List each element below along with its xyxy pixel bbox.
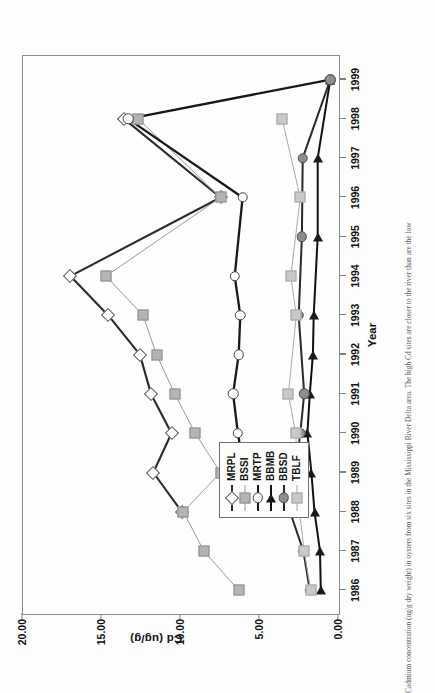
x-tick-label: 1988 bbox=[349, 500, 361, 523]
legend-label-BSSI: BSSI bbox=[239, 457, 250, 481]
data-point-BBMB bbox=[315, 547, 325, 556]
figure-page: Cd (ug/g) 0.005.0010.0015.0020.00 MRPLBS… bbox=[0, 0, 435, 693]
x-tick-label: 1986 bbox=[349, 579, 361, 602]
legend-item-BBSD[interactable]: BBSD bbox=[277, 451, 290, 511]
legend-marker-BBSD bbox=[278, 493, 289, 504]
x-tick-label: 1998 bbox=[349, 107, 361, 130]
legend-item-MRTP[interactable]: MRTP bbox=[251, 451, 264, 511]
data-point-BBSD bbox=[297, 153, 308, 164]
x-tick-label: 1993 bbox=[349, 304, 361, 327]
y-tick-label: 15.00 bbox=[95, 619, 107, 665]
x-tick-mark bbox=[340, 78, 346, 79]
x-tick-mark bbox=[340, 157, 346, 158]
figure-caption: Cadmium concentration (ug/g dry weight) … bbox=[404, 0, 413, 693]
data-point-TBLF bbox=[305, 585, 316, 596]
legend-marker-MRTP bbox=[252, 493, 263, 504]
data-point-BBMB bbox=[316, 586, 326, 595]
chart-figure: Cd (ug/g) 0.005.0010.0015.0020.00 MRPLBS… bbox=[0, 0, 435, 693]
data-point-MRTP bbox=[123, 114, 134, 125]
series-lines bbox=[23, 56, 339, 614]
data-point-BSSI bbox=[138, 310, 149, 321]
legend-marker-MRPL bbox=[224, 491, 238, 505]
legend-label-MRTP: MRTP bbox=[252, 452, 263, 481]
data-point-TBLF bbox=[290, 428, 301, 439]
data-point-BSSI bbox=[198, 546, 209, 557]
data-point-BSSI bbox=[100, 271, 111, 282]
data-point-BBMB bbox=[313, 154, 323, 163]
data-point-BSSI bbox=[215, 192, 226, 203]
rotated-figure-wrapper: Cd (ug/g) 0.005.0010.0015.0020.00 MRPLBS… bbox=[0, 0, 435, 693]
x-tick-mark bbox=[340, 471, 346, 472]
x-tick-mark bbox=[340, 196, 346, 197]
legend-swatch-BBSD bbox=[278, 485, 289, 511]
x-tick-label: 1994 bbox=[349, 264, 361, 287]
x-tick-mark bbox=[340, 275, 346, 276]
data-point-TBLF bbox=[285, 271, 296, 282]
series-line-TBLF bbox=[282, 119, 311, 591]
x-tick-mark bbox=[340, 589, 346, 590]
legend-marker-BBMB bbox=[266, 494, 276, 503]
legend-item-TBLF[interactable]: TBLF bbox=[290, 451, 303, 511]
x-axis-title: Year bbox=[366, 55, 378, 615]
x-tick-mark bbox=[340, 314, 346, 315]
data-point-BBSD bbox=[297, 232, 308, 243]
data-point-BBMB bbox=[308, 350, 318, 359]
x-tick-mark bbox=[340, 550, 346, 551]
data-point-BBMB bbox=[310, 507, 320, 516]
x-tick-mark bbox=[340, 393, 346, 394]
data-point-BBMB bbox=[309, 311, 319, 320]
data-point-BSSI bbox=[178, 506, 189, 517]
x-tick-mark bbox=[340, 353, 346, 354]
x-tick-mark bbox=[340, 236, 346, 237]
legend[interactable]: MRPLBSSIMRTPBBMBBBSDTBLF bbox=[219, 442, 309, 518]
x-tick-label: 1990 bbox=[349, 422, 361, 445]
x-tick-label: 1999 bbox=[349, 68, 361, 91]
x-tick-label: 1995 bbox=[349, 225, 361, 248]
data-point-TBLF bbox=[299, 546, 310, 557]
data-point-BSSI bbox=[151, 349, 162, 360]
legend-item-BBMB[interactable]: BBMB bbox=[264, 451, 277, 511]
data-point-BSSI bbox=[169, 388, 180, 399]
x-tick-label: 1987 bbox=[349, 539, 361, 562]
legend-label-TBLF: TBLF bbox=[291, 455, 302, 481]
legend-label-BBMB: BBMB bbox=[265, 451, 276, 481]
legend-item-MRPL[interactable]: MRPL bbox=[225, 451, 238, 511]
legend-marker-TBLF bbox=[291, 493, 302, 504]
data-point-BSSI bbox=[233, 585, 244, 596]
plot-area: MRPLBSSIMRTPBBMBBBSDTBLF bbox=[22, 55, 340, 615]
series-line-BSSI bbox=[106, 119, 239, 591]
y-tick-label: 20.00 bbox=[16, 619, 28, 665]
data-point-MRTP bbox=[235, 310, 246, 321]
y-tick-label: 5.00 bbox=[253, 619, 265, 665]
legend-label-MRPL: MRPL bbox=[226, 452, 237, 481]
x-tick-label: 1997 bbox=[349, 146, 361, 169]
data-point-TBLF bbox=[283, 388, 294, 399]
data-point-MRTP bbox=[233, 349, 244, 360]
x-tick-label: 1992 bbox=[349, 343, 361, 366]
legend-marker-BSSI bbox=[239, 493, 250, 504]
data-point-MRTP bbox=[229, 271, 240, 282]
data-point-TBLF bbox=[277, 113, 288, 124]
x-tick-label: 1989 bbox=[349, 461, 361, 484]
data-point-MRTP bbox=[228, 389, 239, 400]
legend-swatch-BSSI bbox=[239, 485, 250, 511]
data-point-TBLF bbox=[291, 310, 302, 321]
legend-label-BBSD: BBSD bbox=[278, 452, 289, 481]
data-point-BBSD bbox=[325, 74, 336, 85]
data-point-BSSI bbox=[190, 428, 201, 439]
legend-swatch-MRPL bbox=[226, 485, 237, 511]
x-tick-label: 1996 bbox=[349, 186, 361, 209]
legend-swatch-BBMB bbox=[265, 485, 276, 511]
data-point-BBMB bbox=[313, 232, 323, 241]
x-tick-mark bbox=[340, 511, 346, 512]
y-tick-label: 10.00 bbox=[174, 619, 186, 665]
y-tick-label: 0.00 bbox=[332, 619, 344, 665]
data-point-MRTP bbox=[233, 428, 244, 439]
y-axis-ticks: 0.005.0010.0015.0020.00 bbox=[22, 619, 340, 671]
x-tick-label: 1991 bbox=[349, 382, 361, 405]
data-point-BBSD bbox=[299, 389, 310, 400]
x-tick-mark bbox=[340, 432, 346, 433]
legend-swatch-MRTP bbox=[252, 485, 263, 511]
x-tick-mark bbox=[340, 118, 346, 119]
legend-item-BSSI[interactable]: BSSI bbox=[238, 451, 251, 511]
